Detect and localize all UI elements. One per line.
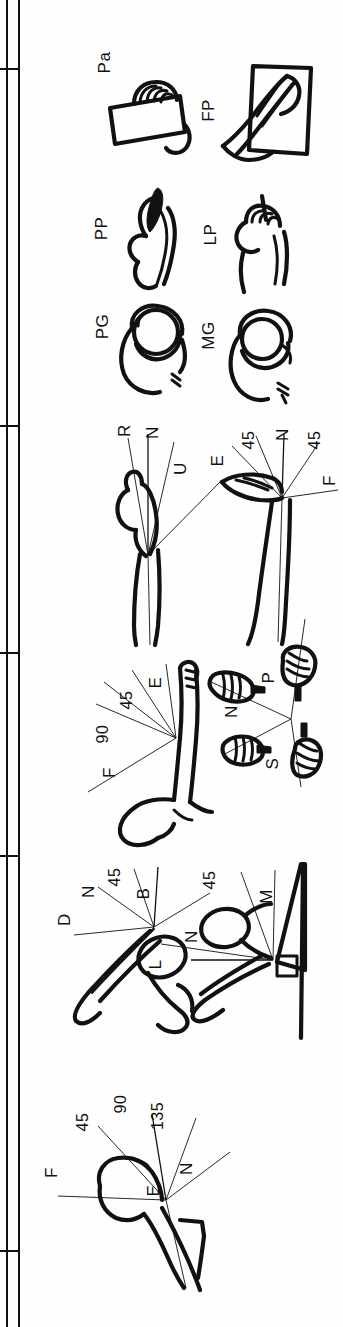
label-grip-medium-wrap: MG <box>200 321 217 349</box>
grip-pulp-pinch-illustration <box>112 182 202 292</box>
label-shoulder-flex-135: 135 <box>150 1102 166 1130</box>
label-shoulder-medial: M <box>258 889 275 904</box>
label-forearm-neutral: N <box>223 705 240 718</box>
label-shoulder-flex-90: 90 <box>113 1095 129 1114</box>
panel-grip-power: PG <box>110 300 205 405</box>
figure-sheet: Pa FP <box>0 0 343 1327</box>
label-elbow-extension: E <box>147 677 164 689</box>
table-outer-rule <box>6 0 8 1327</box>
panel-grip-flat-palm: FP <box>215 58 330 178</box>
label-grip-power: PG <box>94 314 111 340</box>
panel-grip-palmar: Pa <box>100 60 210 165</box>
label-wrist-radial: R <box>116 424 133 437</box>
elbow-flexion-illustration <box>48 660 213 845</box>
label-elbow-flexion: F <box>101 767 118 778</box>
grip-medium-wrap-illustration <box>218 305 313 415</box>
label-shoulder-45-rot: 45 <box>202 871 218 890</box>
label-shoulder-extension: E <box>145 1185 162 1197</box>
panel-shoulder-flexion: F 45 90 135 N E <box>40 1060 250 1290</box>
row-separator <box>0 652 20 654</box>
label-shoulder-flex-n: N <box>178 1162 195 1175</box>
panel-shoulder-rotation: L N 45 M <box>155 860 343 1045</box>
label-shoulder-flex-45: 45 <box>75 1113 91 1132</box>
panel-wrist-flexion: E 45 N 45 F <box>220 430 340 645</box>
row-separator <box>0 1250 20 1252</box>
row-separator <box>0 855 20 857</box>
row-separator <box>0 425 20 427</box>
grip-palmar-illustration <box>100 60 210 165</box>
label-wrist-45-ext: 45 <box>241 431 257 450</box>
table-inner-rule <box>18 0 20 1327</box>
label-wrist-flexion: F <box>321 475 338 486</box>
shoulder-rotation-illustration <box>155 860 343 1045</box>
label-wrist-extension: E <box>209 455 226 467</box>
label-grip-pulp-pinch: PP <box>93 217 110 241</box>
grip-power-illustration <box>110 300 205 405</box>
label-elbow-45: 45 <box>119 691 135 710</box>
label-shoulder-45: 45 <box>107 868 123 887</box>
label-forearm-pronation: P <box>260 672 277 684</box>
label-grip-palmar: Pa <box>96 52 113 74</box>
panel-grip-lateral-pinch: LP <box>222 192 312 300</box>
label-elbow-90: 90 <box>95 725 111 744</box>
panel-elbow-flexion: F 90 45 E <box>48 660 213 845</box>
label-shoulder-back: B <box>135 888 152 900</box>
label-shoulder-adduction: D <box>56 913 73 926</box>
label-wrist-neutral-2: N <box>274 428 291 441</box>
label-shoulder-lateral: L <box>147 960 164 970</box>
panel-grip-pulp-pinch: PP <box>112 182 202 292</box>
grip-flat-palm-illustration <box>215 58 330 178</box>
panel-forearm-rotation: P N S <box>195 615 343 790</box>
wrist-flexion-illustration <box>220 430 340 645</box>
label-wrist-ulnar: U <box>172 462 189 475</box>
shoulder-flexion-illustration <box>40 1060 250 1290</box>
label-shoulder-neutral: N <box>80 885 97 898</box>
label-wrist-neutral: N <box>144 426 161 439</box>
label-grip-lateral-pinch: LP <box>202 224 219 246</box>
label-shoulder-neutral-2: N <box>183 930 200 943</box>
label-shoulder-flexion: F <box>43 1167 60 1178</box>
row-separator <box>0 68 20 70</box>
label-wrist-45-flex: 45 <box>307 431 323 450</box>
label-forearm-supination: S <box>264 758 281 770</box>
grip-lateral-pinch-illustration <box>222 192 312 300</box>
label-grip-flat-palm: FP <box>200 99 217 122</box>
panel-grip-medium-wrap: MG <box>218 305 313 415</box>
